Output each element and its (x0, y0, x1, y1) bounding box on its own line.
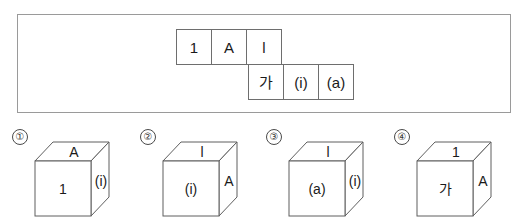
option-2-front-label: (i) (185, 181, 197, 197)
option-2-right-label: A (224, 173, 234, 189)
net-cell-3: l (246, 29, 282, 65)
answer-option-2[interactable]: ② l (i) A (132, 124, 262, 224)
option-2-top-label: l (200, 144, 203, 160)
net-cell-6-label: (a) (327, 75, 345, 90)
option-1-number: ① (12, 129, 28, 145)
answer-option-3[interactable]: ③ l (a) (i) (258, 124, 388, 224)
option-1-right-label: (i) (95, 173, 107, 189)
net-cell-3-label: l (262, 40, 265, 55)
option-3-cube: l (a) (i) (284, 130, 380, 218)
option-3-front-label: (a) (308, 181, 325, 197)
net-row-top: 1 A l (176, 29, 282, 65)
net-cell-5-label: (i) (294, 75, 307, 90)
option-3-top-label: l (326, 144, 329, 160)
option-1-front-label: 1 (59, 181, 67, 197)
net-cell-5: (i) (283, 64, 319, 100)
option-4-right-label: A (478, 173, 488, 189)
net-cell-6: (a) (318, 64, 354, 100)
option-3-number: ③ (266, 129, 282, 145)
net-cell-4-label: 가 (259, 75, 273, 90)
option-4-front-label: 가 (439, 181, 452, 197)
net-cell-2-label: A (224, 40, 234, 55)
option-2-number: ② (140, 129, 156, 145)
option-4-cube: 1 가 A (412, 130, 508, 218)
answer-option-1[interactable]: ① A 1 (i) (4, 124, 134, 224)
question-panel: 1 A l 가 (i) (a) (17, 14, 511, 113)
net-cell-1: 1 (176, 29, 212, 65)
option-1-cube: A 1 (i) (30, 130, 126, 218)
net-cell-4: 가 (248, 64, 284, 100)
option-1-top-label: A (69, 144, 79, 160)
option-4-top-label: 1 (452, 144, 460, 160)
option-2-cube: l (i) A (158, 130, 254, 218)
option-4-number: ④ (394, 129, 410, 145)
option-3-right-label: (i) (349, 173, 361, 189)
net-row-bottom: 가 (i) (a) (248, 65, 354, 100)
answer-option-4[interactable]: ④ 1 가 A (386, 124, 516, 224)
unfolded-cube-net: 1 A l 가 (i) (a) (176, 29, 358, 101)
net-cell-1-label: 1 (190, 40, 198, 55)
answer-options: ① A 1 (i) ② l (i) A ③ (0, 124, 528, 224)
net-cell-2: A (211, 29, 247, 65)
